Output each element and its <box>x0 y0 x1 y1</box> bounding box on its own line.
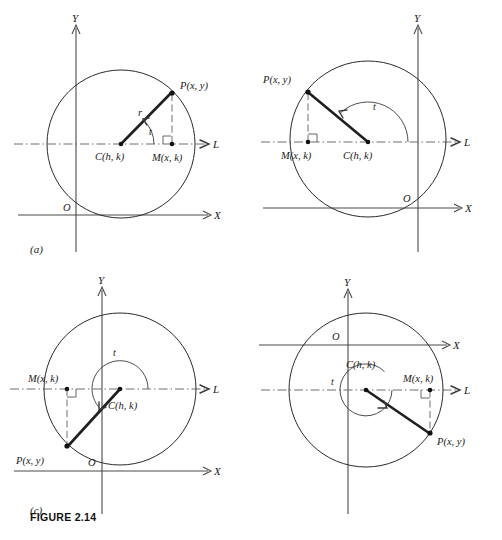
figure-2-14: X Y L O C(h, k) M(x, k) P(x, y) r t (a) <box>0 0 502 540</box>
line-l <box>261 138 460 146</box>
origin-label: O <box>63 202 71 213</box>
panel-a-label: (a) <box>30 243 43 255</box>
line-l-label: L <box>212 138 219 150</box>
axis-x-label: X <box>452 339 461 351</box>
panel-a-diagram: X Y L O C(h, k) M(x, k) P(x, y) r t <box>0 0 251 265</box>
point-m <box>306 140 311 145</box>
angle-label: t <box>331 376 334 387</box>
point-c <box>366 140 371 145</box>
y-axis <box>414 25 422 252</box>
point-p <box>305 89 310 94</box>
point-c <box>119 142 124 147</box>
foot-label: M(x, k) <box>402 373 434 385</box>
figure-caption: FIGURE 2.14 <box>30 511 96 523</box>
segment-cp <box>309 93 368 142</box>
point-c <box>364 388 369 393</box>
point-m <box>65 387 70 392</box>
foot-label: M(x, k) <box>151 152 183 164</box>
point-p-label: P(x, y) <box>15 455 44 467</box>
axis-x-label: X <box>464 202 473 214</box>
point-c <box>118 387 123 392</box>
axis-y-label: Y <box>414 12 422 24</box>
y-axis <box>344 289 352 514</box>
foot-label: M(x, k) <box>27 373 59 385</box>
point-m <box>170 142 175 147</box>
axis-y-label: Y <box>344 276 352 288</box>
angle-label: t <box>373 101 376 112</box>
line-l-label: L <box>463 136 470 148</box>
line-l <box>10 385 209 393</box>
panel-a: X Y L O C(h, k) M(x, k) P(x, y) r t (a) <box>0 0 251 265</box>
angle-label: t <box>113 347 116 358</box>
panel-b: X Y L O C(h, k) M(x, k) P(x, y) t (b) <box>251 0 502 265</box>
axis-y-label: Y <box>72 12 80 24</box>
point-p <box>427 430 432 435</box>
origin-label: O <box>332 331 340 342</box>
panel-d-diagram: X Y L O C(h, k) M(x, k) P(x, y) t <box>251 268 502 533</box>
line-l-label: L <box>463 384 470 396</box>
foot-label: M(x, k) <box>280 150 312 162</box>
x-axis <box>259 341 450 349</box>
line-l-label: L <box>212 383 219 395</box>
point-p-label: P(x, y) <box>179 80 208 92</box>
panel-c-diagram: X Y L O C(h, k) M(x, k) P(x, y) t <box>0 268 251 533</box>
circle <box>290 61 446 217</box>
panel-b-diagram: X Y L O C(h, k) M(x, k) P(x, y) t <box>251 0 502 265</box>
axis-y-label: Y <box>98 274 106 286</box>
point-p-label: P(x, y) <box>436 436 465 448</box>
origin-label: O <box>403 193 411 204</box>
point-p-label: P(x, y) <box>262 74 291 86</box>
segment-cp <box>366 390 429 433</box>
axis-x-label: X <box>213 209 222 221</box>
point-p <box>169 90 174 95</box>
y-axis <box>98 287 106 514</box>
right-angle-mark <box>163 136 171 144</box>
line-l <box>14 140 209 148</box>
x-axis <box>14 467 211 475</box>
y-axis <box>72 25 80 252</box>
point-m <box>428 388 433 393</box>
point-p <box>64 443 69 448</box>
angle-label: t <box>149 126 152 137</box>
panel-c: X Y L O C(h, k) M(x, k) P(x, y) t (c) <box>0 268 251 533</box>
center-label: C(h, k) <box>108 400 138 412</box>
radius-label: r <box>138 107 143 118</box>
center-label: C(h, k) <box>346 359 376 371</box>
x-axis <box>263 204 462 212</box>
axis-x-label: X <box>213 465 222 477</box>
origin-label: O <box>88 457 96 468</box>
panel-d: X Y L O C(h, k) M(x, k) P(x, y) t (d) <box>251 268 502 533</box>
segment-cp <box>68 389 120 446</box>
center-label: C(h, k) <box>95 151 125 163</box>
center-label: C(h, k) <box>343 150 373 162</box>
